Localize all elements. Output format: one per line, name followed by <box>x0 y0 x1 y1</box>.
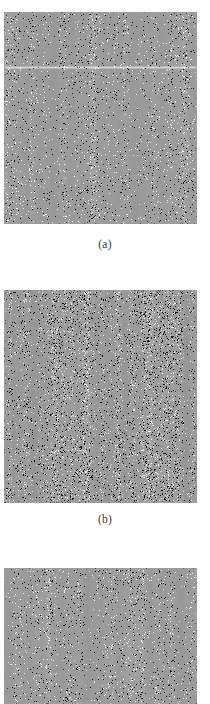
figure-panel-c-container <box>0 568 210 704</box>
panel-caption-a: (a) <box>0 238 210 250</box>
noise-canvas-b <box>4 290 197 503</box>
figure-panel-b-container <box>0 290 210 504</box>
figure-panel-a-container <box>0 0 210 232</box>
noise-image-a <box>4 12 197 224</box>
noise-canvas-c <box>4 568 197 704</box>
panel-caption-b: (b) <box>0 513 210 525</box>
figure-panel-stack: (a) (b) <box>0 0 210 704</box>
noise-canvas-a <box>4 12 197 224</box>
noise-image-b <box>4 290 197 503</box>
noise-image-c <box>4 568 197 704</box>
